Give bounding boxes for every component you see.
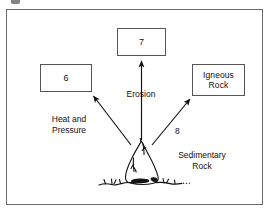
box-igneous-rock[interactable]: Igneous Rock [192, 64, 245, 96]
cropped-glyph-artifact [11, 0, 20, 4]
box-six-label: 6 [63, 73, 68, 84]
diagram-screenshot: 7 6 Igneous Rock Erosion Heat and Pressu… [0, 0, 279, 213]
box-igneous-rock-label: Igneous Rock [203, 70, 234, 91]
label-heat-and-pressure: Heat and Pressure [38, 114, 100, 135]
box-seven[interactable]: 7 [117, 28, 166, 56]
label-arrow-eight: 8 [175, 126, 187, 137]
label-sedimentary-rock: Sedimentary Rock [166, 150, 238, 171]
box-seven-label: 7 [139, 37, 144, 48]
box-six[interactable]: 6 [40, 64, 92, 92]
label-erosion: Erosion [112, 89, 170, 100]
